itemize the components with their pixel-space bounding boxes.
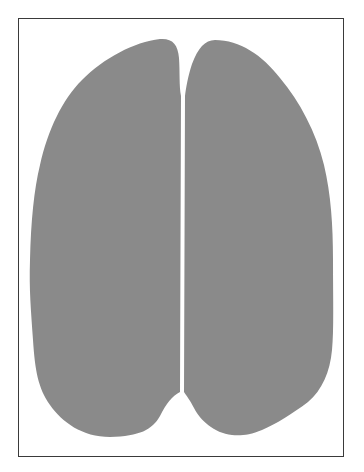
lobes-figure	[0, 0, 364, 472]
left-lobe	[30, 39, 181, 437]
right-lobe	[184, 40, 333, 435]
